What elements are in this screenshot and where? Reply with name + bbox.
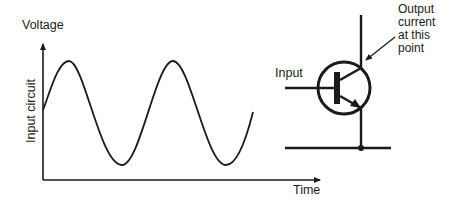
collector-lead xyxy=(340,68,361,80)
y-axis-title: Voltage xyxy=(22,19,64,32)
input-label: Input xyxy=(275,67,303,80)
output-pointer-arrow xyxy=(366,37,395,60)
base-bar xyxy=(334,72,340,104)
output-current-label: Output current at this point xyxy=(398,3,435,55)
junction-dot xyxy=(358,145,364,151)
x-axis-title: Time xyxy=(293,184,320,197)
output-label-line: point xyxy=(398,42,435,55)
y-axis-rotated-label: Input circuit xyxy=(25,79,38,143)
diagram-canvas xyxy=(0,0,459,212)
npn-transistor-icon xyxy=(285,15,391,151)
sine-waveform xyxy=(43,61,253,165)
